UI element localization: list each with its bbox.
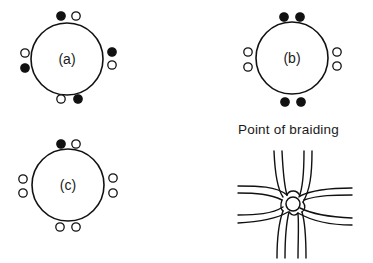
filled-dot	[297, 98, 305, 106]
filled-dot	[281, 98, 289, 106]
braid-knot-center	[286, 197, 300, 211]
empty-dot	[72, 140, 80, 148]
diagram-a-label: (a)	[58, 51, 75, 67]
empty-dot	[56, 223, 64, 231]
filled-dot	[296, 13, 304, 21]
empty-dot	[333, 62, 341, 70]
filled-dot	[108, 48, 116, 56]
empty-dot	[19, 189, 27, 197]
empty-dot	[244, 63, 252, 71]
diagram-b: (b)	[244, 13, 341, 106]
empty-dot	[109, 189, 117, 197]
braid-illustration	[238, 151, 352, 258]
empty-dot	[57, 95, 65, 103]
filled-dot	[280, 13, 288, 21]
empty-dot	[244, 48, 252, 56]
braid-caption: Point of braiding	[238, 122, 339, 137]
empty-dot	[108, 61, 116, 69]
filled-dot	[21, 64, 29, 72]
empty-dot	[333, 48, 341, 56]
filled-dot	[74, 95, 82, 103]
diagram-a: (a)	[21, 12, 116, 103]
diagram-b-label: (b)	[283, 50, 300, 66]
filled-dot	[57, 140, 65, 148]
empty-dot	[109, 174, 117, 182]
empty-dot	[21, 49, 29, 57]
diagram-c-label: (c)	[60, 177, 76, 193]
empty-dot	[72, 223, 80, 231]
diagram-c: (c)	[19, 140, 117, 231]
empty-dot	[72, 12, 80, 20]
empty-dot	[19, 175, 27, 183]
filled-dot	[57, 12, 65, 20]
